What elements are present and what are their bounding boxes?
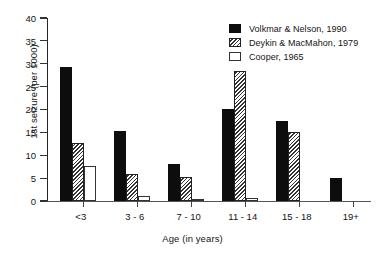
bar — [246, 198, 258, 201]
legend-label: Cooper, 1965 — [249, 52, 304, 62]
bar — [192, 199, 204, 201]
legend-item: Volkmar & Nelson, 1990 — [229, 22, 381, 35]
x-tick-label: 15 - 18 — [282, 211, 312, 222]
y-tick: 40 — [40, 17, 47, 18]
x-tick — [353, 201, 354, 207]
y-axis-line — [47, 18, 48, 201]
x-axis-title: Age (in years) — [0, 233, 385, 244]
bar — [72, 143, 84, 201]
y-tick: 30 — [40, 63, 47, 64]
y-tick: 15 — [40, 132, 47, 133]
x-tick — [83, 201, 84, 207]
x-tick-label: <3 — [75, 211, 86, 222]
x-tick — [137, 201, 138, 207]
y-tick: 20 — [40, 109, 47, 110]
bar — [234, 71, 246, 201]
x-tick-label: 7 - 10 — [177, 211, 201, 222]
bar — [114, 131, 126, 201]
y-tick: 5 — [40, 178, 47, 179]
bar — [276, 121, 288, 201]
legend-item: Deykin & MacMahon, 1979 — [229, 36, 381, 49]
y-tick-label: 10 — [25, 150, 36, 161]
seizure-incidence-bar-chart: 1st seizure (per 1000) 0510152025303540 … — [0, 0, 385, 260]
x-tick — [245, 201, 246, 207]
y-tick-label: 25 — [25, 81, 36, 92]
y-tick-label: 35 — [25, 35, 36, 46]
y-tick: 35 — [40, 40, 47, 41]
x-tick — [191, 201, 192, 207]
x-tick — [299, 201, 300, 207]
y-tick-label: 30 — [25, 58, 36, 69]
bar — [180, 177, 192, 201]
legend-item: Cooper, 1965 — [229, 50, 381, 63]
legend-label: Deykin & MacMahon, 1979 — [249, 38, 358, 48]
bar — [84, 166, 96, 201]
bar — [126, 174, 138, 201]
y-tick-label: 5 — [31, 173, 36, 184]
y-tick-label: 20 — [25, 104, 36, 115]
legend-swatch-icon — [229, 52, 241, 61]
bar — [138, 196, 150, 201]
bar — [222, 109, 234, 201]
y-tick: 10 — [40, 155, 47, 156]
x-tick-label: 19+ — [343, 211, 359, 222]
x-tick-label: 11 - 14 — [228, 211, 257, 222]
bar — [60, 67, 72, 201]
y-tick-label: 0 — [31, 195, 36, 206]
x-axis-line — [47, 201, 371, 202]
legend-swatch-icon — [229, 38, 241, 47]
y-tick-label: 40 — [25, 13, 36, 24]
legend-swatch-icon — [229, 24, 241, 33]
chart-legend: Volkmar & Nelson, 1990Deykin & MacMahon,… — [229, 22, 381, 64]
y-tick: 0 — [40, 200, 47, 201]
y-tick-label: 15 — [25, 127, 36, 138]
legend-label: Volkmar & Nelson, 1990 — [249, 24, 347, 34]
y-tick: 25 — [40, 86, 47, 87]
x-tick-label: 3 - 6 — [125, 211, 144, 222]
bar — [330, 178, 342, 201]
bar — [288, 132, 300, 201]
bar — [168, 164, 180, 201]
